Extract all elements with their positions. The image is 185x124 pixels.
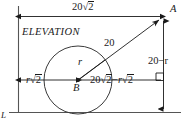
radius-label: r	[78, 57, 82, 68]
right-segment-a-prefix: 20	[90, 74, 101, 85]
point-a-label: A	[170, 4, 176, 15]
right-segment-a-radicand: 2	[106, 74, 112, 86]
ground-line-label: L	[1, 111, 6, 120]
top-dimension-label: 20√2	[72, 1, 94, 13]
right-segment-b-radicand: 2	[127, 74, 133, 86]
right-segment-label: 20√2−r√2	[90, 74, 134, 86]
top-dimension-prefix: 20	[72, 1, 83, 12]
hypotenuse-length-label: 20	[104, 38, 115, 49]
elevation-title: ELEVATION	[22, 27, 80, 38]
vertical-dimension-label: 20−r	[148, 56, 168, 67]
left-segment-radicand: 2	[35, 74, 41, 86]
left-segment-label: r√2	[26, 74, 42, 86]
right-angle-marker	[156, 73, 164, 81]
elevation-geometry-figure: ELEVATION 20√2 A 20 r B r√2 20√2−r√2 20−…	[0, 0, 185, 124]
point-b-label: B	[73, 83, 79, 94]
top-dimension-radicand: 2	[88, 1, 94, 13]
